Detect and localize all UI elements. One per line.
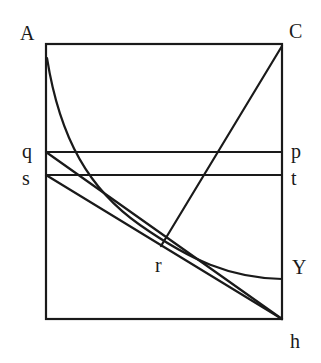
label-r: r [155, 254, 162, 276]
label-C: C [289, 20, 302, 42]
curve-A-Y [47, 58, 282, 279]
label-q: q [22, 140, 32, 163]
line-q-h [46, 152, 282, 319]
label-s: s [22, 167, 30, 189]
label-h: h [290, 330, 300, 352]
line-C-r [161, 46, 282, 246]
label-p: p [291, 140, 301, 163]
outer-rectangle [46, 44, 282, 319]
geometry-diagram: A C q p s t r Y h [0, 0, 321, 363]
label-A: A [20, 22, 35, 44]
label-t: t [291, 167, 297, 189]
line-s-h [46, 175, 282, 319]
label-Y: Y [292, 256, 306, 278]
